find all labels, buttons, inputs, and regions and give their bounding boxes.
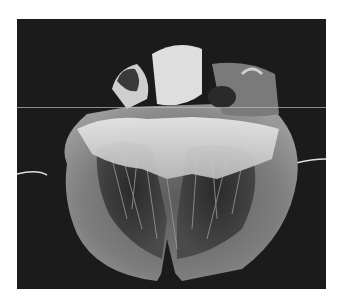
left-wire: [17, 172, 47, 175]
specimen-photo: [17, 19, 326, 289]
scan-line: [17, 107, 326, 108]
pulmonary-trunk: [152, 45, 202, 105]
atrial-opening: [208, 86, 236, 108]
right-wire: [296, 159, 326, 163]
heart-specimen: [17, 19, 326, 289]
